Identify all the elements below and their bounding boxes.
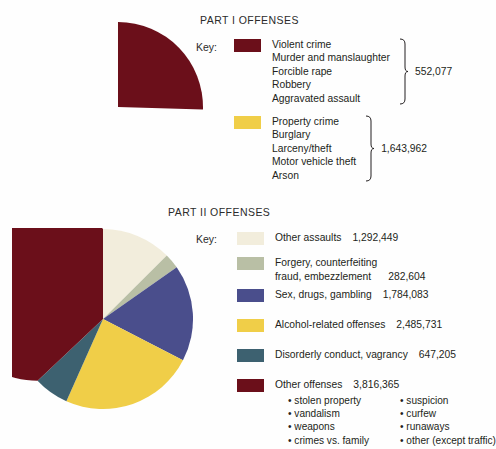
sub-bullet: suspicion: [400, 394, 496, 407]
part-ii-title: PART II OFFENSES: [168, 206, 270, 218]
part-i-legend-group-property: Property crime Burglary Larceny/theft Mo…: [234, 115, 427, 182]
legend-item: Aggravated assault: [272, 92, 390, 105]
legend-swatch-sex-drugs-gambling: [237, 289, 264, 302]
legend-row-other-offenses: Other offenses 3,816,365: [237, 378, 399, 392]
legend-swatch-disorderly-conduct: [237, 349, 264, 362]
legend-swatch-alcohol-related: [237, 319, 264, 332]
legend-line: Sex, drugs, gambling: [275, 288, 372, 302]
brace-property-crime: [365, 115, 374, 182]
legend-swatch-violent-crime: [234, 39, 261, 52]
legend-line: Other offenses: [275, 378, 342, 392]
legend-label-alcohol-related: Alcohol-related offenses: [275, 318, 385, 332]
legend-item: Burglary: [272, 128, 356, 141]
legend-items-property-crime: Property crime Burglary Larceny/theft Mo…: [272, 115, 356, 182]
legend-item: Forcible rape: [272, 65, 390, 78]
legend-item: Property crime: [272, 115, 356, 128]
legend-label-other-offenses: Other offenses: [275, 378, 342, 392]
part-i-key-label: Key:: [196, 41, 217, 53]
legend-line: Other assaults: [275, 231, 341, 245]
sub-bullet: stolen property: [288, 394, 392, 407]
legend-label-other-assaults: Other assaults: [275, 231, 341, 245]
legend-item: Arson: [272, 169, 356, 182]
part-i-legend-group-violent: Violent crime Murder and manslaughter Fo…: [234, 38, 452, 105]
legend-swatch-other-assaults: [237, 232, 264, 245]
brace-violent-crime: [399, 38, 408, 105]
sub-bullet: weapons: [288, 420, 392, 433]
legend-line: Alcohol-related offenses: [275, 318, 385, 332]
other-offenses-sub-bullets: stolen property suspicion vandalism curf…: [288, 394, 496, 447]
sub-bullet: vandalism: [288, 407, 392, 420]
legend-item: Murder and manslaughter: [272, 51, 390, 64]
legend-row-other-assaults: Other assaults 1,292,449: [237, 231, 398, 245]
part-ii-key-label: Key:: [196, 233, 217, 245]
pie-slice-violent-crime: [118, 22, 203, 109]
legend-label-sex-drugs-gambling: Sex, drugs, gambling: [275, 288, 372, 302]
legend-label-forgery: Forgery, counterfeiting fraud, embezzlem…: [275, 256, 377, 283]
legend-value-disorderly-conduct: 647,205: [419, 348, 456, 362]
part-i-pie: [33, 22, 203, 192]
legend-line: Forgery, counterfeiting: [275, 256, 377, 270]
part-ii-pie: [12, 228, 194, 410]
legend-swatch-property-crime: [234, 116, 261, 129]
sub-bullet: other (except traffic): [400, 434, 496, 447]
legend-item: Motor vehicle theft: [272, 155, 356, 168]
legend-item: Violent crime: [272, 38, 390, 51]
legend-value-forgery: 282,604: [388, 270, 425, 284]
legend-total-property-crime: 1,643,962: [381, 143, 427, 154]
part-i-title: PART I OFFENSES: [200, 14, 299, 26]
legend-swatch-other-offenses: [237, 379, 264, 392]
legend-value-alcohol-related: 2,485,731: [396, 318, 442, 332]
legend-value-sex-drugs-gambling: 1,784,083: [383, 288, 429, 302]
legend-line: Disorderly conduct, vagrancy: [275, 348, 408, 362]
legend-line: fraud, embezzlement: [275, 270, 377, 284]
legend-row-alcohol-related: Alcohol-related offenses 2,485,731: [237, 318, 442, 332]
legend-row-sex-drugs-gambling: Sex, drugs, gambling 1,784,083: [237, 288, 429, 302]
sub-bullet: curfew: [400, 407, 496, 420]
legend-total-violent-crime: 552,077: [415, 66, 452, 77]
sub-bullet: runaways: [400, 420, 496, 433]
sub-bullet: crimes vs. family: [288, 434, 392, 447]
legend-row-forgery: Forgery, counterfeiting fraud, embezzlem…: [237, 256, 426, 283]
legend-item: Robbery: [272, 78, 390, 91]
legend-swatch-forgery: [237, 257, 264, 270]
legend-value-other-assaults: 1,292,449: [352, 231, 398, 245]
legend-label-disorderly-conduct: Disorderly conduct, vagrancy: [275, 348, 408, 362]
legend-item: Larceny/theft: [272, 142, 356, 155]
legend-row-disorderly-conduct: Disorderly conduct, vagrancy 647,205: [237, 348, 456, 362]
legend-value-other-offenses: 3,816,365: [353, 378, 399, 392]
legend-items-violent-crime: Violent crime Murder and manslaughter Fo…: [272, 38, 390, 105]
